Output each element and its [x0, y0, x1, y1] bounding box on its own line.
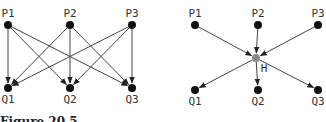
edge-arrow — [256, 62, 257, 85]
node-q1 — [4, 84, 12, 92]
node-p1 — [4, 21, 12, 29]
node-q1 — [191, 86, 199, 94]
node-hub — [252, 54, 260, 62]
node-p3 — [128, 21, 136, 29]
node-p3 — [314, 21, 322, 29]
edge-arrow — [260, 27, 314, 56]
hub-diagram: P1P2P3Q1Q2Q3H — [188, 7, 324, 108]
node-q2 — [66, 84, 74, 92]
node-label: Q2 — [251, 95, 264, 108]
edge-arrow — [256, 29, 257, 53]
hub-label: H — [261, 62, 268, 75]
node-label: P2 — [251, 7, 264, 20]
node-label: Q3 — [311, 95, 324, 108]
figure-caption: Figure 20.5 — [0, 115, 78, 122]
edge-arrow — [199, 60, 252, 88]
node-q3 — [128, 84, 136, 92]
node-q2 — [254, 86, 262, 94]
node-label: Q3 — [125, 93, 138, 106]
node-label: P1 — [1, 7, 14, 20]
edge-arrow — [199, 27, 252, 56]
node-label: P3 — [311, 7, 324, 20]
node-label: Q1 — [188, 95, 201, 108]
figure-canvas: P1P2P3Q1Q2Q3 P1P2P3Q1Q2Q3H Figure 20.5 — [0, 0, 326, 122]
node-q3 — [314, 86, 322, 94]
edge-arrow — [260, 60, 314, 88]
node-label: P2 — [63, 7, 76, 20]
complete-bipartite-diagram: P1P2P3Q1Q2Q3 — [1, 7, 138, 106]
node-label: Q2 — [63, 93, 76, 106]
node-label: P1 — [188, 7, 201, 20]
node-label: Q1 — [1, 93, 14, 106]
node-label: P3 — [125, 7, 138, 20]
node-p2 — [66, 21, 74, 29]
node-p2 — [254, 21, 262, 29]
node-p1 — [191, 21, 199, 29]
